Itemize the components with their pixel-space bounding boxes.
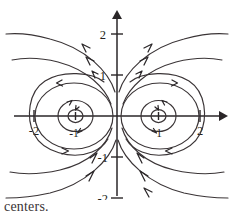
right-center-label: 1 (156, 127, 162, 139)
phase-portrait-figure: -2 2 2 1 -1 -2 (0, 0, 232, 200)
left-outer-trajectory-lower-1 (10, 128, 112, 174)
flow-arrow-right-6 (136, 71, 142, 78)
figure-caption: centers. (4, 198, 49, 216)
right-outer-trajectory-lower-1 (122, 128, 224, 174)
flow-arrow-right-4 (172, 80, 178, 86)
y-tick-label-minus2: -2 (98, 192, 108, 200)
y-tick-label-2: 2 (100, 28, 106, 42)
left-flow-arrows (57, 44, 99, 181)
phase-portrait-plot: -2 2 2 1 -1 -2 (0, 0, 232, 200)
flow-arrow-left-2 (67, 101, 72, 106)
x-tick-label-minus2: -2 (29, 124, 39, 138)
flow-arrow-left-8 (82, 44, 90, 52)
left-outer-trajectory-upper-1 (12, 58, 111, 104)
flow-arrow-right-11 (144, 188, 152, 197)
flow-arrow-right-8 (144, 44, 152, 52)
y-axis-arrowhead-icon (112, 10, 122, 19)
flow-arrow-right-2 (162, 101, 167, 106)
flow-arrow-left-6 (92, 71, 98, 78)
flow-arrow-left-4 (57, 80, 63, 86)
left-center-label: -1 (69, 127, 79, 139)
tick-labels-group: -2 2 2 1 -1 -2 (29, 28, 203, 200)
x-axis-arrowhead-icon (219, 111, 228, 121)
left-orbit-family (29, 74, 113, 156)
right-orbit-family (121, 74, 205, 156)
right-outer-trajectory-upper-1 (123, 58, 222, 104)
